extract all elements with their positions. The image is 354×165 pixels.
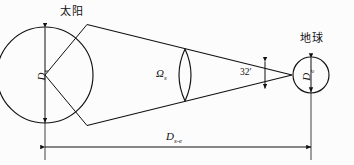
cone-lower-edge [87,75,292,126]
cone-upper-edge [87,25,292,76]
earth-label: 地球 [300,33,323,44]
sun-diameter-label: Ds [36,70,50,81]
earth-diameter-label: De [301,70,315,81]
earth-diameter-subscript: e [308,70,316,73]
sun-diameter-subscript: s [42,70,50,73]
distance-subscript: s-e [174,137,182,145]
solid-angle-symbol: Ω [156,67,164,79]
solid-angle-label: Ωs [156,68,167,82]
solid-angle-subscript: s [164,74,167,82]
solid-angle-lens [179,49,191,101]
sun-diameter-symbol: D [35,72,47,80]
earth-diameter-symbol: D [300,73,312,81]
distance-label: Ds-e [166,131,182,145]
distance-symbol: D [166,130,174,142]
sun-label: 太阳 [60,6,83,17]
solar-solid-angle-diagram: 太阳 地球 Ds De Ωs 32′ Ds-e [0,0,354,165]
angle-value-label: 32′ [240,68,252,78]
